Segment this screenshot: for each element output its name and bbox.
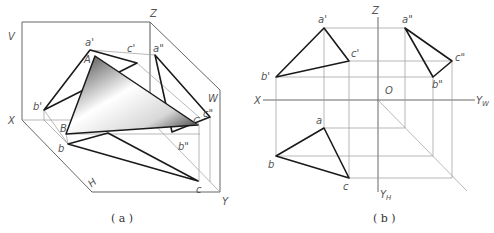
label-c-prime: c' (127, 43, 135, 54)
label-b-prime-b: b' (261, 71, 270, 82)
label-c-b: c (343, 181, 349, 192)
label-yh-axis: YH (380, 189, 392, 202)
front-view-triangle (276, 28, 349, 77)
label-a-b: a (316, 115, 322, 126)
label-point-a: A (83, 54, 91, 65)
label-c-dprime-b: c" (455, 52, 465, 63)
label-a-prime-b: a' (318, 14, 327, 25)
label-yw-axis: YW (476, 95, 490, 108)
label-b: b (58, 143, 64, 154)
label-origin: O (385, 85, 393, 96)
caption-b: ( b ) (373, 212, 396, 225)
label-v-plane: V (8, 31, 16, 42)
label-a-dprime-b: a" (402, 14, 413, 25)
figure-a-3d-view: V Z W X Y H a' c' a" b' c" b" A B C b c … (7, 8, 229, 225)
top-view-triangle (276, 128, 349, 178)
projection-diagram: V Z W X Y H a' c' a" b' c" b" A B C b c … (0, 0, 494, 233)
label-x-axis: X (7, 115, 16, 126)
label-c-dprime: c" (203, 108, 213, 119)
label-b-dprime-b: b" (432, 79, 443, 90)
side-view-triangle (405, 28, 452, 77)
caption-a: ( a ) (111, 212, 133, 225)
label-x-axis-b: X (253, 95, 262, 106)
label-c-prime-b: c' (351, 48, 359, 59)
label-c: c (196, 184, 202, 195)
label-b-dprime: b" (178, 141, 189, 152)
figure-b-three-view: Z X O YW YH a' c' b' a" c" b" a b c ( b … (253, 5, 490, 225)
label-a-prime: a' (85, 37, 94, 48)
label-b-prime: b' (33, 101, 42, 112)
oy-axis (150, 120, 220, 192)
label-w-plane: W (208, 93, 219, 104)
label-z-axis-b: Z (371, 5, 380, 16)
45-degree-line (378, 100, 467, 191)
label-y-axis: Y (222, 196, 229, 207)
space-triangle-abc (66, 56, 198, 134)
label-z-axis: Z (149, 8, 158, 19)
label-point-b: B (60, 123, 67, 134)
label-a-dprime: a" (153, 43, 164, 54)
label-b-b: b (268, 159, 274, 170)
label-point-c: C (193, 116, 200, 127)
